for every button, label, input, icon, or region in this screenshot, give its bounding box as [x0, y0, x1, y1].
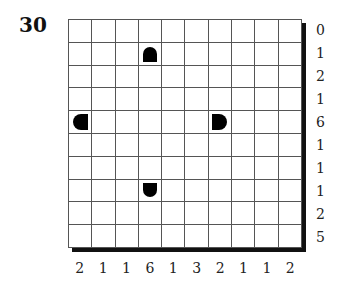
grid-cell-r2-c3[interactable] [139, 66, 162, 89]
grid-cell-r6-c5[interactable] [185, 157, 208, 180]
grid-cell-r2-c6[interactable] [209, 66, 232, 89]
grid-cell-r5-c1[interactable] [92, 134, 115, 157]
grid-cell-r5-c2[interactable] [116, 134, 139, 157]
grid-cell-r8-c4[interactable] [162, 202, 185, 225]
grid-cell-r6-c9[interactable] [279, 157, 302, 180]
grid-cell-r7-c5[interactable] [185, 180, 208, 203]
grid-cell-r4-c5[interactable] [185, 111, 208, 134]
grid-cell-r0-c8[interactable] [255, 20, 278, 43]
grid-cell-r7-c7[interactable] [232, 180, 255, 203]
grid-cell-r6-c7[interactable] [232, 157, 255, 180]
grid-cell-r8-c5[interactable] [185, 202, 208, 225]
grid-cell-r1-c9[interactable] [279, 43, 302, 66]
grid-cell-r0-c7[interactable] [232, 20, 255, 43]
grid-cell-r7-c3[interactable] [139, 180, 162, 203]
grid-cell-r7-c2[interactable] [116, 180, 139, 203]
grid-cell-r0-c1[interactable] [92, 20, 115, 43]
grid-cell-r3-c2[interactable] [116, 88, 139, 111]
grid-cell-r3-c6[interactable] [209, 88, 232, 111]
grid-cell-r9-c0[interactable] [69, 225, 92, 248]
grid-cell-r7-c4[interactable] [162, 180, 185, 203]
grid-cell-r2-c8[interactable] [255, 66, 278, 89]
grid-cell-r5-c0[interactable] [69, 134, 92, 157]
grid-cell-r3-c8[interactable] [255, 88, 278, 111]
grid-cell-r0-c2[interactable] [116, 20, 139, 43]
grid-cell-r4-c2[interactable] [116, 111, 139, 134]
grid-cell-r4-c7[interactable] [232, 111, 255, 134]
grid-cell-r1-c1[interactable] [92, 43, 115, 66]
grid-cell-r0-c3[interactable] [139, 20, 162, 43]
grid-cell-r9-c6[interactable] [209, 225, 232, 248]
grid-cell-r3-c1[interactable] [92, 88, 115, 111]
grid-cell-r5-c5[interactable] [185, 134, 208, 157]
grid-cell-r8-c8[interactable] [255, 202, 278, 225]
grid-cell-r7-c0[interactable] [69, 180, 92, 203]
grid-cell-r4-c6[interactable] [209, 111, 232, 134]
grid-cell-r9-c8[interactable] [255, 225, 278, 248]
grid-cell-r1-c4[interactable] [162, 43, 185, 66]
grid-cell-r1-c6[interactable] [209, 43, 232, 66]
grid-cell-r0-c0[interactable] [69, 20, 92, 43]
grid-cell-r2-c7[interactable] [232, 66, 255, 89]
grid-cell-r1-c8[interactable] [255, 43, 278, 66]
grid-cell-r8-c9[interactable] [279, 202, 302, 225]
grid-cell-r0-c9[interactable] [279, 20, 302, 43]
grid-cell-r6-c0[interactable] [69, 157, 92, 180]
grid-cell-r6-c3[interactable] [139, 157, 162, 180]
grid-cell-r8-c3[interactable] [139, 202, 162, 225]
grid-cell-r3-c4[interactable] [162, 88, 185, 111]
grid-cell-r8-c2[interactable] [116, 202, 139, 225]
grid-cell-r3-c5[interactable] [185, 88, 208, 111]
grid-cell-r8-c7[interactable] [232, 202, 255, 225]
grid-cell-r2-c0[interactable] [69, 66, 92, 89]
grid-cell-r2-c4[interactable] [162, 66, 185, 89]
grid-cell-r7-c9[interactable] [279, 180, 302, 203]
grid-cell-r4-c8[interactable] [255, 111, 278, 134]
grid-cell-r1-c3[interactable] [139, 43, 162, 66]
grid-cell-r6-c1[interactable] [92, 157, 115, 180]
grid-cell-r6-c2[interactable] [116, 157, 139, 180]
grid-cell-r6-c4[interactable] [162, 157, 185, 180]
grid-cell-r3-c3[interactable] [139, 88, 162, 111]
grid-cell-r4-c4[interactable] [162, 111, 185, 134]
grid-cell-r5-c3[interactable] [139, 134, 162, 157]
grid-cell-r3-c7[interactable] [232, 88, 255, 111]
grid-cell-r1-c7[interactable] [232, 43, 255, 66]
grid-cell-r9-c2[interactable] [116, 225, 139, 248]
grid-cell-r5-c8[interactable] [255, 134, 278, 157]
grid-cell-r2-c5[interactable] [185, 66, 208, 89]
grid-cell-r0-c4[interactable] [162, 20, 185, 43]
grid-cell-r4-c9[interactable] [279, 111, 302, 134]
grid-cell-r5-c7[interactable] [232, 134, 255, 157]
grid-cell-r2-c1[interactable] [92, 66, 115, 89]
grid-cell-r5-c9[interactable] [279, 134, 302, 157]
grid-cell-r9-c7[interactable] [232, 225, 255, 248]
grid-cell-r0-c5[interactable] [185, 20, 208, 43]
grid-cell-r1-c5[interactable] [185, 43, 208, 66]
grid-cell-r9-c4[interactable] [162, 225, 185, 248]
grid-cell-r7-c8[interactable] [255, 180, 278, 203]
grid-cell-r3-c9[interactable] [279, 88, 302, 111]
grid-cell-r8-c0[interactable] [69, 202, 92, 225]
grid-cell-r3-c0[interactable] [69, 88, 92, 111]
grid-cell-r7-c1[interactable] [92, 180, 115, 203]
grid-cell-r4-c1[interactable] [92, 111, 115, 134]
grid-cell-r8-c1[interactable] [92, 202, 115, 225]
grid-cell-r5-c6[interactable] [209, 134, 232, 157]
grid-cell-r1-c2[interactable] [116, 43, 139, 66]
grid-cell-r8-c6[interactable] [209, 202, 232, 225]
grid-cell-r6-c8[interactable] [255, 157, 278, 180]
grid-cell-r9-c5[interactable] [185, 225, 208, 248]
grid-cell-r6-c6[interactable] [209, 157, 232, 180]
grid-cell-r2-c9[interactable] [279, 66, 302, 89]
grid-cell-r5-c4[interactable] [162, 134, 185, 157]
grid-cell-r9-c9[interactable] [279, 225, 302, 248]
grid-cell-r0-c6[interactable] [209, 20, 232, 43]
grid-cell-r1-c0[interactable] [69, 43, 92, 66]
grid-cell-r2-c2[interactable] [116, 66, 139, 89]
grid-cell-r4-c0[interactable] [69, 111, 92, 134]
grid-cell-r7-c6[interactable] [209, 180, 232, 203]
grid-cell-r4-c3[interactable] [139, 111, 162, 134]
grid-cell-r9-c3[interactable] [139, 225, 162, 248]
grid-cell-r9-c1[interactable] [92, 225, 115, 248]
